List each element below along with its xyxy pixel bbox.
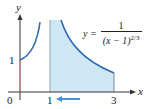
equation-fraction: 1 (x − 1)2/3	[101, 20, 142, 47]
equation-lhs: y =	[83, 28, 97, 39]
equation-numerator: 1	[117, 20, 126, 31]
x-axis-label: x	[138, 86, 143, 97]
y-axis-arrow-icon	[18, 14, 23, 20]
y-tick-1: 1	[9, 55, 15, 66]
y-axis-label: y	[16, 2, 21, 13]
x-tick-0: 0	[7, 95, 13, 106]
equation-denominator: (x − 1)2/3	[101, 31, 142, 47]
denominator-exponent: 2/3	[131, 34, 140, 42]
x-tick-3: 3	[111, 95, 117, 106]
plot-canvas	[0, 0, 151, 109]
curve-left-branch	[20, 22, 40, 60]
x-tick-1: 1	[47, 95, 53, 106]
function-equation: y = 1 (x − 1)2/3	[83, 20, 142, 47]
x-axis-arrow-icon	[130, 90, 136, 95]
denominator-base: (x − 1)	[103, 35, 131, 46]
limit-arrow-left-icon	[56, 96, 62, 102]
